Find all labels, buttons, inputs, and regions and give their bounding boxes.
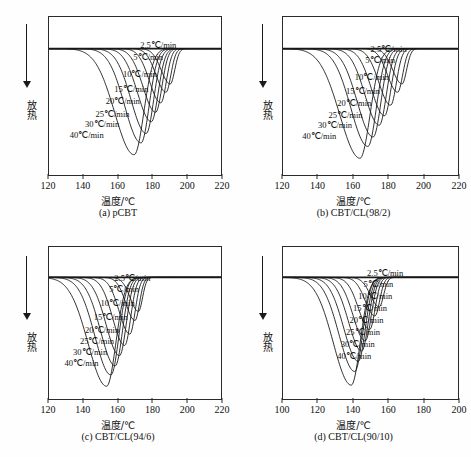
x-tick bbox=[48, 174, 49, 179]
cooling-rate-label: 10℃/min bbox=[123, 70, 157, 79]
panel-d: 放热 2.5℃/min5℃/min10℃/min15℃/min20℃/min25… bbox=[236, 228, 471, 457]
x-tick bbox=[82, 398, 83, 403]
x-axis-a: 120140160180200220 bbox=[48, 174, 222, 184]
plot-area-a: 2.5℃/min5℃/min10℃/min15℃/min20℃/min25℃/m… bbox=[48, 16, 222, 176]
exotherm-arrow-icon bbox=[23, 81, 31, 88]
cooling-rate-label: 40℃/min bbox=[302, 132, 336, 141]
y-axis-label: 放热 bbox=[254, 332, 272, 352]
x-tick-label: 200 bbox=[180, 404, 195, 415]
y-axis-label: 放热 bbox=[18, 332, 36, 352]
x-tick-label: 140 bbox=[310, 180, 325, 191]
x-tick bbox=[352, 174, 353, 179]
x-tick bbox=[187, 174, 188, 179]
y-axis-c: 放热 bbox=[14, 256, 40, 402]
x-tick bbox=[352, 398, 353, 403]
x-tick bbox=[222, 174, 223, 179]
exotherm-arrow-line bbox=[26, 256, 27, 316]
cooling-rate-label: 2.5℃/min bbox=[114, 274, 150, 283]
plot-area-b: 2.5℃/min5℃/min10℃/min15℃/min20℃/min25℃/m… bbox=[282, 16, 459, 176]
x-tick bbox=[317, 174, 318, 179]
cooling-rate-label: 20℃/min bbox=[85, 326, 119, 335]
x-tick-label: 140 bbox=[75, 180, 90, 191]
exotherm-arrow-line bbox=[262, 24, 263, 84]
cooling-rate-label: 30℃/min bbox=[318, 121, 352, 130]
cooling-rate-label: 30℃/min bbox=[73, 348, 107, 357]
x-tick bbox=[152, 174, 153, 179]
x-tick-label: 180 bbox=[381, 180, 396, 191]
cooling-rate-label: 25℃/min bbox=[95, 110, 129, 119]
x-tick bbox=[388, 174, 389, 179]
cooling-rate-label: 5℃/min bbox=[365, 56, 395, 65]
panel-a: 放热 2.5℃/min5℃/min10℃/min15℃/min20℃/min25… bbox=[0, 0, 236, 228]
cooling-rate-label: 15℃/min bbox=[353, 304, 387, 313]
x-axis-title-a: 温度/℃ bbox=[0, 193, 236, 208]
cooling-rate-label: 20℃/min bbox=[337, 99, 371, 108]
x-axis-d: 100120140160180200 bbox=[282, 398, 459, 408]
x-tick bbox=[459, 174, 460, 179]
x-tick bbox=[282, 174, 283, 179]
x-tick bbox=[117, 174, 118, 179]
x-tick bbox=[222, 398, 223, 403]
panel-caption-d: (d) CBT/CL(90/10) bbox=[236, 431, 471, 442]
exotherm-arrow-line bbox=[26, 24, 27, 84]
cooling-rate-label: 30℃/min bbox=[85, 120, 119, 129]
y-axis-label: 放热 bbox=[254, 100, 272, 120]
x-tick-label: 220 bbox=[452, 180, 467, 191]
x-tick bbox=[82, 174, 83, 179]
x-tick-label: 120 bbox=[41, 180, 56, 191]
cooling-rate-label: 30℃/min bbox=[341, 340, 375, 349]
x-tick-label: 140 bbox=[345, 404, 360, 415]
cooling-rate-label: 5℃/min bbox=[109, 285, 139, 294]
dsc-cooling-curves-figure: 放热 2.5℃/min5℃/min10℃/min15℃/min20℃/min25… bbox=[0, 0, 471, 457]
panel-b: 放热 2.5℃/min5℃/min10℃/min15℃/min20℃/min25… bbox=[236, 0, 471, 228]
x-tick bbox=[48, 398, 49, 403]
x-tick bbox=[388, 398, 389, 403]
x-tick-label: 160 bbox=[110, 404, 125, 415]
x-tick-label: 200 bbox=[180, 180, 195, 191]
exotherm-arrow-line bbox=[262, 256, 263, 316]
x-tick bbox=[117, 398, 118, 403]
cooling-rate-label: 5℃/min bbox=[133, 53, 163, 62]
y-axis-label: 放热 bbox=[18, 100, 36, 120]
x-axis-b: 120140160180200220 bbox=[282, 174, 459, 184]
cooling-rate-label: 2.5℃/min bbox=[371, 45, 407, 54]
cooling-rate-label: 10℃/min bbox=[101, 299, 135, 308]
x-tick-label: 160 bbox=[110, 180, 125, 191]
x-axis-c: 120140160180200220 bbox=[48, 398, 222, 408]
panel-c: 放热 2.5℃/min5℃/min10℃/min15℃/min20℃/min25… bbox=[0, 228, 236, 457]
x-tick bbox=[187, 398, 188, 403]
x-tick-label: 200 bbox=[452, 404, 467, 415]
cooling-rate-label: 2.5℃/min bbox=[367, 269, 403, 278]
x-tick-label: 120 bbox=[275, 180, 290, 191]
cooling-rate-label: 40℃/min bbox=[70, 131, 104, 140]
cooling-rate-label: 25℃/min bbox=[329, 111, 363, 120]
curve-canvas-b bbox=[283, 17, 458, 175]
cooling-rate-label: 25℃/min bbox=[346, 328, 380, 337]
y-axis-a: 放热 bbox=[14, 24, 40, 170]
cooling-rate-label: 40℃/min bbox=[337, 352, 371, 361]
cooling-rate-label: 15℃/min bbox=[114, 85, 148, 94]
exotherm-arrow-icon bbox=[259, 81, 267, 88]
y-axis-d: 放热 bbox=[250, 256, 276, 402]
cooling-rate-label: 20℃/min bbox=[350, 316, 384, 325]
panel-caption-c: (c) CBT/CL(94/6) bbox=[0, 431, 236, 442]
x-tick-label: 180 bbox=[145, 404, 160, 415]
cooling-rate-label: 15℃/min bbox=[94, 313, 128, 322]
cooling-rate-label: 20℃/min bbox=[106, 97, 140, 106]
cooling-rate-label: 10℃/min bbox=[355, 73, 389, 82]
cooling-rate-label: 10℃/min bbox=[358, 292, 392, 301]
cooling-rate-label: 5℃/min bbox=[364, 280, 394, 289]
x-tick-label: 180 bbox=[416, 404, 431, 415]
plot-area-c: 2.5℃/min5℃/min10℃/min15℃/min20℃/min25℃/m… bbox=[48, 246, 222, 400]
x-axis-title-c: 温度/℃ bbox=[0, 417, 236, 432]
y-axis-b: 放热 bbox=[250, 24, 276, 170]
x-tick bbox=[423, 398, 424, 403]
exotherm-arrow-icon bbox=[259, 313, 267, 320]
cooling-rate-label: 2.5℃/min bbox=[140, 41, 176, 50]
panel-caption-b: (b) CBT/CL(98/2) bbox=[236, 207, 471, 218]
x-tick bbox=[317, 398, 318, 403]
x-tick-label: 140 bbox=[75, 404, 90, 415]
x-tick-label: 120 bbox=[41, 404, 56, 415]
cooling-rate-label: 40℃/min bbox=[64, 359, 98, 368]
x-axis-title-d: 温度/℃ bbox=[236, 417, 471, 432]
